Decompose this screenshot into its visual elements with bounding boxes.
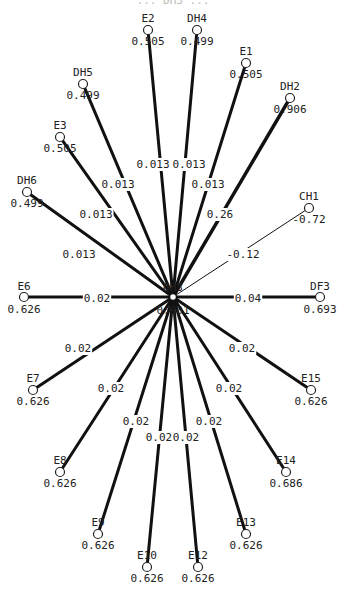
edge-weight-label: 0.04 [235,292,262,305]
edge-weight-label: 0.013 [191,178,224,191]
edge-weight-label: 0.02 [173,431,200,444]
node-id-label: E14 [276,454,296,467]
diagram-title: ... DH3 ... [137,0,210,7]
edge-weight-label: 0.02 [229,342,256,355]
node-ch1[interactable]: CH1-0.72 [292,190,325,226]
node-id-label: CH1 [299,190,319,203]
edge-weight-label: 0.02 [216,382,243,395]
node-circle-icon[interactable] [20,293,29,302]
node-circle-icon[interactable] [23,188,32,197]
node-circle-icon[interactable] [282,468,291,477]
node-value-label: 0.626 [229,539,262,552]
edge-weight-label: 0.02 [123,415,150,428]
node-value-label: 0.499 [66,89,99,102]
node-value-label: 0.626 [181,572,214,585]
edge-weight-label: 0.013 [79,208,112,221]
edge-dh2-dh3 [173,102,287,297]
node-value-label: 0.626 [16,395,49,408]
node-id-label: E3 [53,119,66,132]
node-value-label: 0.686 [269,477,302,490]
node-value-label: 0.499 [10,197,43,210]
node-id-label: DH5 [73,66,93,79]
node-circle-icon[interactable] [242,530,251,539]
node-value-label: 0.505 [43,142,76,155]
node-circle-icon[interactable] [29,386,38,395]
edge-weight-label: 0.02 [98,382,125,395]
node-id-label: DF3 [310,280,330,293]
node-dh4[interactable]: DH40.499 [180,12,213,48]
node-id-label: E9 [91,516,104,529]
node-value-label: -0.72 [292,213,325,226]
node-circle-icon[interactable] [56,133,65,142]
node-circle-icon[interactable] [316,293,325,302]
node-id-label: E7 [26,372,39,385]
node-circle-icon[interactable] [94,530,103,539]
node-id-label: E2 [141,12,154,25]
node-e14[interactable]: E140.686 [269,454,302,490]
edge-weight-label: 0.26 [207,208,234,221]
node-e9[interactable]: E90.626 [81,516,114,552]
node-id-label: E12 [188,549,208,562]
node-id-label: E8 [53,454,66,467]
center-node-group: DH3 0.901 [156,281,189,317]
node-value-label: 0.626 [81,539,114,552]
node-dh5[interactable]: DH50.499 [66,66,99,102]
node-value-label: 0.626 [130,572,163,585]
node-id-label: E10 [137,549,157,562]
node-e15[interactable]: E150.626 [294,372,327,408]
node-circle-icon[interactable] [193,26,202,35]
node-id-label: DH4 [187,12,207,25]
edge-weight-label: 0.013 [172,158,205,171]
node-id-label: E6 [17,280,30,293]
node-value-label: 0.626 [43,477,76,490]
edge-weight-label: 0.013 [101,178,134,191]
node-value-label: 0.505 [229,68,262,81]
node-e13[interactable]: E130.626 [229,516,262,552]
node-circle-icon[interactable] [194,563,203,572]
edge-weight-label: -0.12 [226,248,259,261]
center-node-icon[interactable] [170,294,177,301]
node-circle-icon[interactable] [286,94,295,103]
node-circle-icon[interactable] [143,563,152,572]
node-e7[interactable]: E70.626 [16,372,49,408]
network-diagram: ... DH3 ... 0.0130.0130.0130.0130.0130.2… [0,0,347,592]
node-circle-icon[interactable] [305,204,314,213]
node-id-label: DH2 [280,80,300,93]
node-circle-icon[interactable] [56,468,65,477]
node-id-label: DH6 [17,174,37,187]
node-id-label: E1 [239,45,252,58]
center-node-value: 0.901 [156,304,189,317]
node-value-label: 0.499 [180,35,213,48]
edge-weight-label: 0.02 [65,342,92,355]
node-e1[interactable]: E10.505 [229,45,262,81]
edge-e7-dh3 [37,297,173,387]
edge-weight-label: 0.02 [146,431,173,444]
node-dh6[interactable]: DH60.499 [10,174,43,210]
node-value-label: 0.693 [303,303,336,316]
node-circle-icon[interactable] [242,59,251,68]
node-value-label: 0.906 [273,103,306,116]
node-e3[interactable]: E30.505 [43,119,76,155]
edge-weight-label: 0.02 [84,292,111,305]
edge-weight-label: 0.013 [62,248,95,261]
node-value-label: 0.626 [294,395,327,408]
node-e10[interactable]: E100.626 [130,549,163,585]
node-circle-icon[interactable] [307,386,316,395]
node-circle-icon[interactable] [144,26,153,35]
node-e12[interactable]: E120.626 [181,549,214,585]
node-e8[interactable]: E80.626 [43,454,76,490]
node-value-label: 0.626 [7,303,40,316]
center-node-label: DH3 [163,281,183,294]
node-dh2[interactable]: DH20.906 [273,80,306,116]
node-id-label: E15 [301,372,321,385]
node-circle-icon[interactable] [79,80,88,89]
edge-weight-label: 0.02 [196,415,223,428]
node-e2[interactable]: E20.505 [131,12,164,48]
edge-weight-label: 0.013 [136,158,169,171]
node-id-label: E13 [236,516,256,529]
node-value-label: 0.505 [131,35,164,48]
